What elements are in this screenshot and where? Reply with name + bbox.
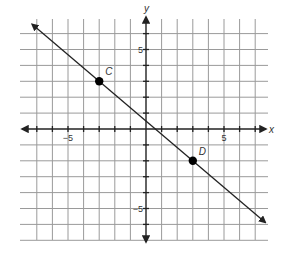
y-tick-label-neg5: −5 — [133, 204, 143, 214]
y-tick-label-pos5: 5 — [138, 45, 143, 55]
coordinate-plane: x y −5 5 5 −5 C D — [0, 0, 284, 253]
point-c — [95, 77, 103, 85]
y-axis-label: y — [143, 3, 150, 14]
point-d — [189, 157, 197, 165]
x-axis-label: x — [268, 124, 275, 135]
x-tick-label-pos5: 5 — [221, 133, 226, 143]
point-c-label: C — [105, 66, 113, 77]
x-tick-label-neg5: −5 — [63, 133, 73, 143]
point-d-label: D — [199, 146, 206, 157]
